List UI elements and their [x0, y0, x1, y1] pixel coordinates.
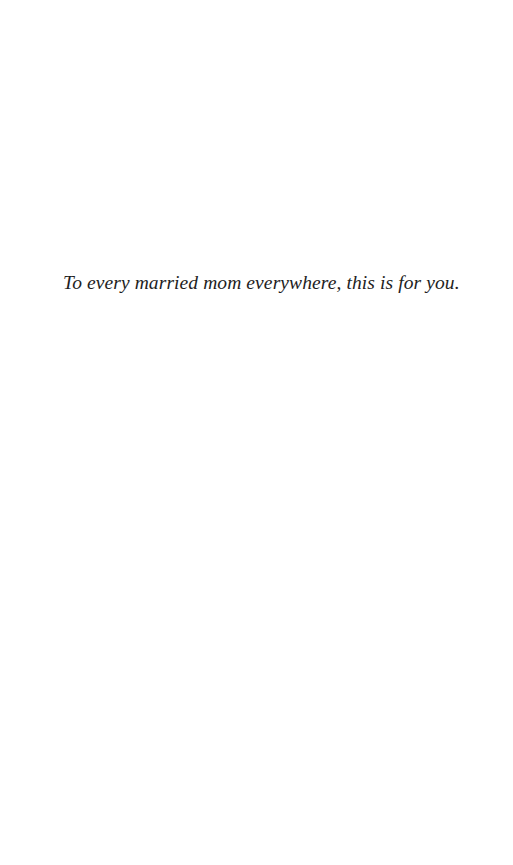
- dedication-page: To every married mom everywhere, this is…: [0, 0, 513, 865]
- dedication-text: To every married mom everywhere, this is…: [63, 272, 460, 294]
